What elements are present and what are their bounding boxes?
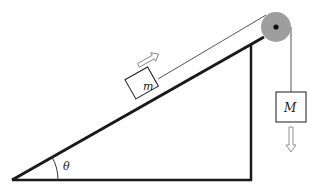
block-M-label: M bbox=[283, 101, 297, 115]
arrow-up-incline-icon bbox=[136, 50, 161, 70]
angle-label: θ bbox=[63, 160, 70, 173]
incline-surface bbox=[12, 37, 264, 180]
block-m-label: m bbox=[143, 80, 153, 93]
angle-arc bbox=[52, 157, 58, 180]
arrow-down-icon bbox=[286, 127, 296, 152]
inclined-plane-diagram: θ m M bbox=[0, 0, 321, 192]
pulley-axle-icon bbox=[273, 24, 278, 29]
